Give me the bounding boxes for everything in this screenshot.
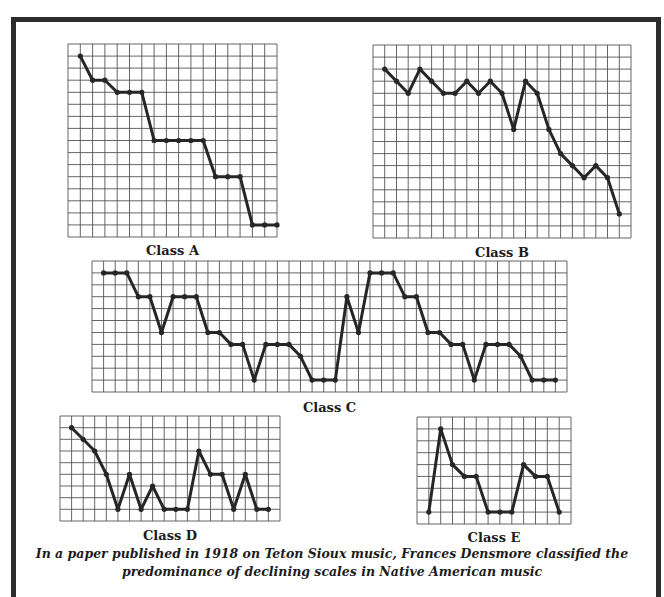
grid-plot	[68, 44, 277, 237]
caption-line-2: predominance of declining scales in Nati…	[20, 563, 644, 581]
grid-plot	[92, 261, 567, 392]
grid-plot	[60, 416, 280, 521]
class-d-label: Class D	[60, 528, 280, 543]
grid-plot	[373, 45, 631, 238]
class-a-label: Class A	[68, 243, 277, 258]
class-e-label: Class E	[417, 530, 571, 545]
class-c-label: Class C	[92, 400, 567, 415]
grid-plot	[417, 417, 571, 524]
caption-line-1: In a paper published in 1918 on Teton Si…	[20, 545, 644, 563]
figure-caption: In a paper published in 1918 on Teton Si…	[20, 545, 644, 581]
class-b-label: Class B	[373, 245, 631, 260]
